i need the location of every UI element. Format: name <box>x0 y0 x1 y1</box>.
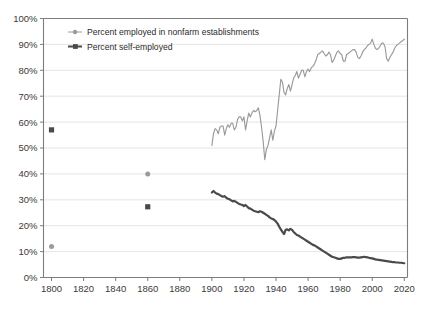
x-axis-tick-label: 2000 <box>362 283 383 294</box>
chart-container: 0%10%20%30%40%50%60%70%80%90%100% 180018… <box>0 0 425 309</box>
isolated-data-points <box>49 127 150 249</box>
isolated-point-circle <box>49 244 54 249</box>
x-axis-tick-label: 1840 <box>105 283 126 294</box>
x-axis-tick-label: 2020 <box>394 283 415 294</box>
y-axis-tick-label: 50% <box>18 142 38 153</box>
x-axis-tick-label: 1800 <box>41 283 62 294</box>
x-axis-tick-label: 1960 <box>298 283 319 294</box>
isolated-point-square <box>145 204 150 209</box>
series-line-nonfarm <box>212 39 404 159</box>
y-axis-tick-label: 40% <box>18 168 38 179</box>
chart-legend: Percent employed in nonfarm establishmen… <box>68 27 259 52</box>
legend-label-1: Percent self-employed <box>87 42 173 52</box>
x-axis-tick-label: 1880 <box>169 283 190 294</box>
y-axis-tick-label: 20% <box>18 220 38 231</box>
x-axis-tick-label: 1820 <box>73 283 94 294</box>
x-axis-tick-label: 1940 <box>265 283 286 294</box>
y-axis-tick-label: 70% <box>18 91 38 102</box>
y-axis-tick-label: 0% <box>24 272 38 283</box>
y-axis-tick-label: 80% <box>18 65 38 76</box>
y-axis-tick-label: 60% <box>18 117 38 128</box>
y-axis-tick-label: 10% <box>18 246 38 257</box>
legend-marker-circle <box>73 30 77 34</box>
y-axis-tick-label: 30% <box>18 194 38 205</box>
x-axis-tick-label: 1980 <box>330 283 351 294</box>
employment-trends-line-chart: 0%10%20%30%40%50%60%70%80%90%100% 180018… <box>0 0 425 309</box>
isolated-point-circle <box>145 171 150 176</box>
y-axis-tick-label: 90% <box>18 39 38 50</box>
y-axis-tick-labels: 0%10%20%30%40%50%60%70%80%90%100% <box>13 13 38 283</box>
gridlines <box>44 19 408 252</box>
x-axis-tick-label: 1900 <box>201 283 222 294</box>
series-line-self-employed <box>212 191 404 263</box>
x-axis-tick-label: 1920 <box>233 283 254 294</box>
legend-label-0: Percent employed in nonfarm establishmen… <box>87 27 259 37</box>
legend-marker-square <box>73 44 78 49</box>
data-series <box>212 39 404 263</box>
isolated-point-square <box>49 127 54 132</box>
x-axis-tick-labels: 1800182018401860188019001920194019601980… <box>41 283 415 294</box>
y-axis-tick-label: 100% <box>13 13 38 24</box>
x-axis-tick-label: 1860 <box>137 283 158 294</box>
